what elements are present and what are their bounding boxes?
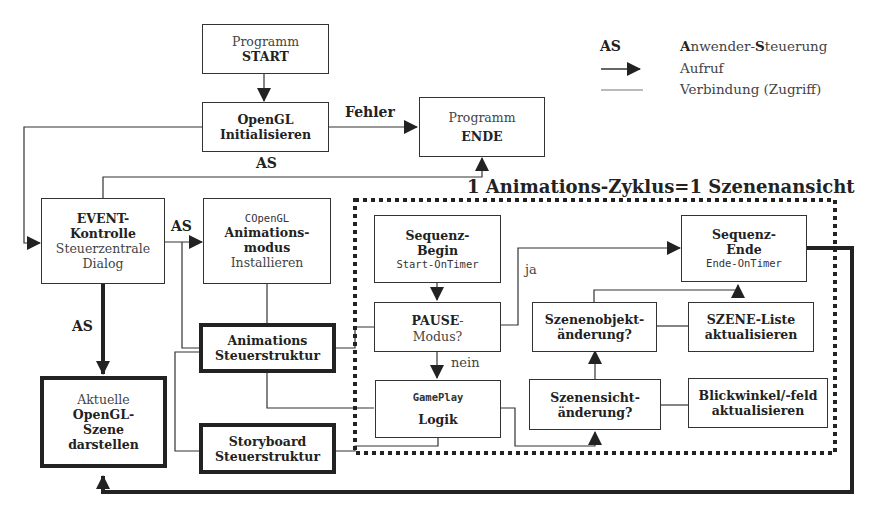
box-animations-steuerstruktur[interactable]: Animations Steuerstruktur [199, 323, 336, 373]
box-event-kontrolle[interactable]: EVENT- Kontrolle Steuerzentrale Dialog [41, 198, 165, 284]
box-opengl-init[interactable]: OpenGL Initialisieren [202, 102, 329, 152]
box-gameplay-logik[interactable]: GamePlay Logik [375, 380, 501, 438]
init-line1: OpenGL [237, 112, 293, 127]
init-line2: Initialisieren [220, 127, 311, 142]
label-as-top: AS [256, 155, 277, 171]
seqende-line3: Ende-OnTimer [706, 257, 782, 270]
animmodus-line3: modus [244, 240, 290, 255]
objaend-line2: änderung? [557, 327, 632, 342]
pause-line1-wrap: PAUSE- [412, 310, 464, 329]
cycle-title: 1 Animations-Zyklus=1 Szenenansicht [467, 176, 855, 197]
seqbegin-line2: Begin [417, 243, 458, 258]
storyboard-line2: Steuerstruktur [215, 449, 320, 464]
box-szene-liste[interactable]: SZENE-Liste aktualisieren [688, 302, 814, 352]
sichtaend-line1: Szenensicht- [550, 390, 640, 405]
event-line3: Steuerzentrale [56, 241, 150, 256]
legend-arrow-text: Aufruf [680, 60, 724, 76]
animsteuer-line1: Animations [228, 333, 308, 348]
box-opengl-szene-darstellen[interactable]: Aktuelle OpenGL- Szene darstellen [40, 376, 167, 468]
legend-as-a: A [680, 38, 690, 54]
blick-line1: Blickwinkel/-feld [699, 388, 818, 403]
label-as-event-szene: AS [72, 318, 93, 334]
seqende-line1: Sequenz- [712, 227, 776, 242]
seqbegin-line1: Sequenz- [405, 228, 469, 243]
storyboard-line1: Storyboard [229, 434, 307, 449]
seqende-line2: Ende [726, 242, 761, 257]
legend-as-rest: teuerung [765, 38, 828, 54]
legend-as-text: Anwender-Steuerung [680, 38, 827, 54]
szene-line1: Aktuelle [77, 392, 129, 407]
szene-line2: OpenGL- [73, 407, 134, 422]
box-blickwinkel[interactable]: Blickwinkel/-feld aktualisieren [688, 378, 828, 428]
label-fehler: Fehler [345, 104, 395, 120]
animmodus-line4: Installieren [231, 255, 304, 270]
event-line4: Dialog [83, 256, 124, 271]
label-nein: nein [451, 355, 480, 370]
legend-as-key: AS [600, 38, 621, 54]
event-line2: Kontrolle [70, 226, 136, 241]
box-sequenz-begin[interactable]: Sequenz- Begin Start-OnTimer [374, 215, 501, 283]
ende-line1: Programm [448, 110, 515, 125]
blick-line2: aktualisieren [712, 403, 805, 418]
szeneliste-line2: aktualisieren [705, 327, 798, 342]
box-szenenobjekt-aenderung[interactable]: Szenenobjekt- änderung? [532, 302, 657, 352]
label-as-event-anim: AS [171, 218, 192, 234]
box-pause-modus[interactable]: PAUSE- Modus? [374, 302, 501, 352]
seqbegin-line3: Start-OnTimer [396, 258, 478, 271]
legend-line-text: Verbindung (Zugriff) [680, 81, 821, 97]
box-storyboard-steuerstruktur[interactable]: Storyboard Steuerstruktur [199, 423, 336, 474]
szene-line3: Szene [83, 422, 124, 437]
legend-as-mid: nwender- [690, 38, 755, 54]
gameplay-line1: GamePlay [413, 391, 464, 404]
pause-line3: Modus? [413, 329, 463, 344]
szene-line4: darstellen [68, 437, 139, 452]
box-program-ende[interactable]: Programm ENDE [419, 97, 545, 157]
gameplay-line2: Logik [418, 412, 457, 427]
objaend-line1: Szenenobjekt- [545, 312, 644, 327]
start-line2: START [242, 49, 289, 64]
pause-line1: PAUSE [412, 313, 460, 328]
box-program-start[interactable]: Programm START [202, 24, 329, 74]
box-sequenz-ende[interactable]: Sequenz- Ende Ende-OnTimer [681, 215, 807, 282]
legend-as-s: S [755, 38, 765, 54]
label-ja: ja [525, 262, 537, 277]
animmodus-line1: COpenGL [245, 212, 289, 225]
box-animationsmodus[interactable]: COpenGL Animations- modus Installieren [203, 198, 331, 284]
animsteuer-line2: Steuerstruktur [215, 348, 320, 363]
szeneliste-line1: SZENE-Liste [707, 312, 795, 327]
animmodus-line2: Animations- [224, 225, 309, 240]
box-szenensicht-aenderung[interactable]: Szenensicht- änderung? [529, 379, 661, 430]
start-line1: Programm [232, 34, 299, 49]
event-line1: EVENT- [77, 211, 130, 226]
sichtaend-line2: änderung? [558, 405, 633, 420]
ende-line2: ENDE [461, 129, 502, 144]
pause-dash: - [459, 313, 463, 328]
